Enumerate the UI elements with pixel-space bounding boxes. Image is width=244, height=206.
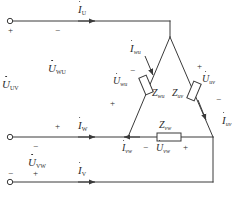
polarity-wu-top-minus: − (130, 66, 135, 75)
polarity-v-above-plus: + (33, 169, 38, 178)
impedance-box-zuv (187, 81, 201, 101)
label-voltage-uvw: UVW (28, 157, 46, 168)
label-voltage-uwu-phase: Uwu (113, 76, 127, 86)
label-voltage-uvw-phase: Uvw (156, 143, 170, 153)
arrow-current-iuv (198, 100, 206, 120)
polarity-vw-right-plus: + (183, 143, 188, 152)
label-impedance-zwu: Zwu (152, 88, 165, 98)
label-impedance-zvw: Zvw (159, 120, 171, 130)
label-current-iuv: Iuv (222, 115, 231, 126)
polarity-uv-bottom-minus: − (216, 95, 221, 104)
label-voltage-uuv-phase: Uuv (202, 74, 215, 84)
label-current-iw: IW (78, 120, 87, 131)
label-current-iwu: Iwu (130, 43, 141, 54)
terminal-v (7, 179, 12, 184)
label-current-iu: IU (78, 4, 86, 15)
label-impedance-zuv: Zuv (172, 88, 183, 98)
terminal-u (7, 18, 12, 23)
polarity-u-left-plus: + (8, 26, 13, 35)
label-current-ivw: Ivw (122, 143, 132, 153)
label-voltage-uuv: UUV (2, 79, 19, 90)
polarity-uv-top-plus: + (197, 62, 202, 71)
label-current-iv: IV (78, 165, 86, 176)
polarity-vw-left-minus: − (143, 143, 148, 152)
polarity-w-below-minus: − (33, 142, 38, 151)
arrow-current-iwu (145, 56, 153, 75)
impedance-box-zvw (157, 133, 181, 141)
terminal-w (7, 134, 12, 139)
polarity-wu-bottom-plus: + (110, 99, 115, 108)
polarity-v-left-minus: − (8, 169, 13, 178)
circuit-diagram: IU + − UUV UWU Iwu − + Uwu Zwu + − Zuv U… (0, 0, 244, 206)
polarity-w-above-plus: + (55, 122, 60, 131)
polarity-u-mid-minus: − (55, 26, 60, 35)
label-voltage-uwu: UWU (48, 63, 66, 74)
